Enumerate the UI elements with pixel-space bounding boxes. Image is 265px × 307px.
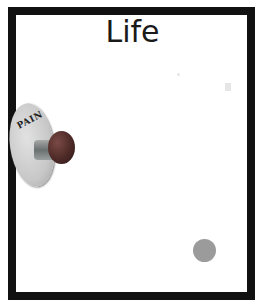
slide-title: Life: [0, 14, 265, 49]
pain-button[interactable]: PAIN: [10, 103, 76, 193]
speck: [225, 83, 231, 91]
gray-dot: [193, 239, 216, 262]
speck: [177, 73, 180, 76]
button-cap-icon: [48, 131, 75, 164]
